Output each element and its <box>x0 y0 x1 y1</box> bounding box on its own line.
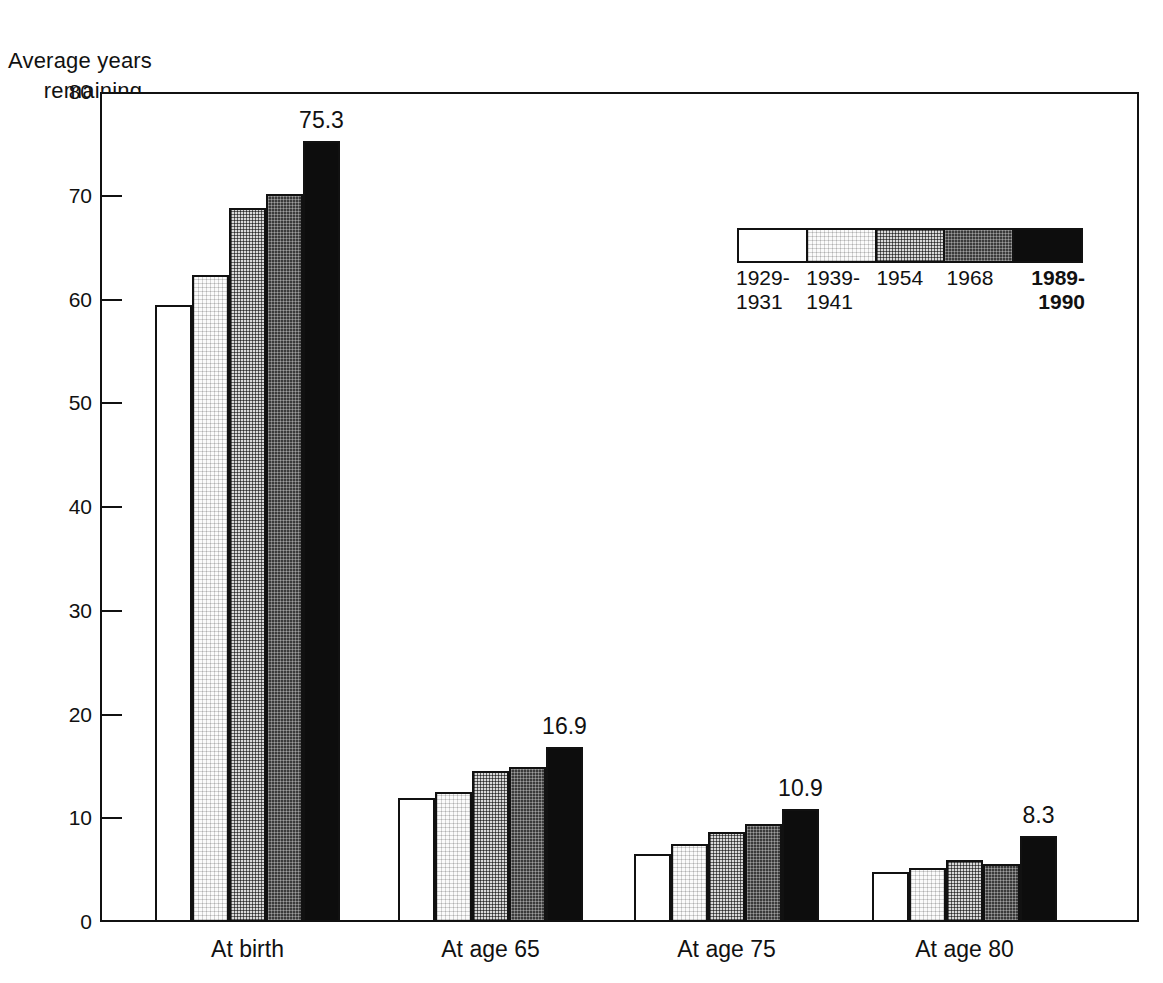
bar-chart: Average years remaining 8070605040302010… <box>0 0 1163 983</box>
bar <box>398 798 435 923</box>
y-tick-label-50: 50 <box>32 392 92 413</box>
y-tick-30 <box>100 610 122 612</box>
category-label: At age 75 <box>617 936 837 962</box>
legend-swatch-box <box>737 228 1083 263</box>
bar <box>634 854 671 922</box>
y-tick-label-80: 80 <box>32 81 92 102</box>
legend-swatch-1968 <box>945 230 1014 261</box>
y-tick-label-20: 20 <box>32 704 92 725</box>
category-label: At birth <box>138 936 358 962</box>
bar <box>946 860 983 922</box>
bar <box>435 792 472 922</box>
y-tick-label-0: 0 <box>32 911 92 932</box>
category-label: At age 65 <box>381 936 601 962</box>
bar <box>745 824 782 922</box>
bar <box>472 771 509 922</box>
legend-swatch-1989-1990 <box>1014 230 1081 261</box>
bar <box>155 305 192 922</box>
y-tick-label-10: 10 <box>32 807 92 828</box>
bar <box>303 141 340 922</box>
legend-label-1954: 1954 <box>875 266 945 314</box>
category-label: At age 80 <box>855 936 1075 962</box>
bar <box>266 194 303 922</box>
bar <box>1020 836 1057 922</box>
y-tick-40 <box>100 506 122 508</box>
bar <box>229 208 266 922</box>
y-tick-70 <box>100 195 122 197</box>
value-label: 8.3 <box>994 804 1084 827</box>
bar <box>782 809 819 922</box>
bar <box>909 868 946 922</box>
legend-swatch-1939-1941 <box>808 230 877 261</box>
y-tick-label-70: 70 <box>32 185 92 206</box>
y-tick-60 <box>100 299 122 301</box>
y-tick-label-60: 60 <box>32 289 92 310</box>
y-tick-50 <box>100 402 122 404</box>
bar <box>708 832 745 922</box>
bar <box>546 747 583 922</box>
legend-swatch-1929-1931 <box>739 230 808 261</box>
y-axis-title-line1: Average years <box>8 48 152 73</box>
y-tick-label-30: 30 <box>32 600 92 621</box>
legend-label-1939-1941: 1939- 1941 <box>805 266 875 314</box>
legend-labels: 1929- 1931 1939- 1941 1954 1968 1989- 19… <box>735 266 1087 314</box>
legend-swatch-1954 <box>877 230 946 261</box>
value-label: 75.3 <box>277 109 367 132</box>
bar <box>192 275 229 922</box>
y-tick-10 <box>100 817 122 819</box>
bar <box>872 872 909 922</box>
legend-label-1968: 1968 <box>946 266 1016 314</box>
bar <box>983 864 1020 922</box>
legend-label-1989-1990: 1989- 1990 <box>1016 266 1087 314</box>
value-label: 10.9 <box>756 777 846 800</box>
bar <box>671 844 708 922</box>
value-label: 16.9 <box>520 715 610 738</box>
legend-label-1929-1931: 1929- 1931 <box>735 266 805 314</box>
y-tick-20 <box>100 714 122 716</box>
y-tick-label-40: 40 <box>32 496 92 517</box>
bar <box>509 767 546 922</box>
